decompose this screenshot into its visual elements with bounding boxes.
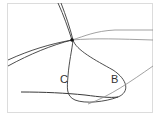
- curve-left-b: [8, 40, 72, 66]
- label-b: B: [111, 74, 118, 85]
- label-c: C: [60, 74, 68, 85]
- curve-diagram: [0, 0, 156, 119]
- curve-top-a: [58, 3, 72, 40]
- curve-right-lower: [72, 39, 153, 40]
- curve-top-b: [61, 3, 73, 40]
- curve-right-upper: [72, 30, 153, 40]
- loop-curve: [67, 40, 125, 102]
- curve-diagonal: [88, 66, 153, 104]
- intersection-point: [70, 38, 74, 42]
